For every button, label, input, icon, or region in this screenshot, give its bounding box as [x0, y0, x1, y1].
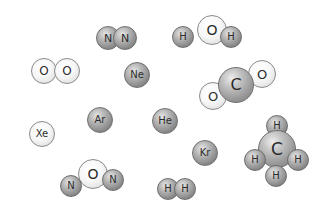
- atom-label: C: [230, 77, 241, 93]
- atom-label: N: [104, 33, 112, 44]
- atom-label: O: [206, 23, 217, 37]
- atom-label: Kr: [200, 148, 211, 158]
- atom-n: N: [60, 175, 82, 197]
- atom-label: Xe: [36, 129, 49, 139]
- atom-h: H: [172, 26, 194, 48]
- atom-c: C: [218, 67, 254, 103]
- atom-n: N: [102, 169, 124, 191]
- atom-label: O: [257, 68, 267, 81]
- atom-label: O: [87, 167, 98, 181]
- atom-label: Ne: [130, 70, 144, 80]
- atom-label: H: [272, 171, 280, 181]
- atom-label: H: [294, 155, 302, 165]
- atom-h: H: [244, 149, 266, 171]
- atom-h: H: [220, 26, 242, 48]
- atom-label: C: [271, 141, 283, 158]
- atom-label: H: [227, 32, 235, 42]
- atom-xe: Xe: [29, 121, 55, 147]
- atom-h: H: [287, 149, 309, 171]
- atom-label: H: [164, 184, 172, 194]
- gas-particles-diagram: NNOHHOONeOOCXeArHeKrHCHHHONNHH: [0, 0, 326, 214]
- atom-label: N: [109, 175, 116, 185]
- atom-label: O: [39, 65, 48, 77]
- atom-kr: Kr: [192, 140, 218, 166]
- atom-o: O: [54, 58, 80, 84]
- atom-label: H: [251, 155, 259, 165]
- atom-h: H: [174, 178, 196, 200]
- atom-n: N: [113, 26, 137, 50]
- atom-ar: Ar: [87, 107, 113, 133]
- atom-label: H: [179, 32, 187, 42]
- atom-label: N: [67, 181, 74, 191]
- atom-label: O: [208, 90, 218, 103]
- atom-he: He: [152, 108, 178, 134]
- atom-label: H: [181, 184, 189, 194]
- atom-label: He: [158, 116, 172, 126]
- atom-label: O: [62, 65, 71, 77]
- atom-ne: Ne: [124, 62, 150, 88]
- atom-label: N: [121, 33, 129, 44]
- atom-label: Ar: [95, 115, 106, 125]
- atom-h: H: [265, 165, 287, 187]
